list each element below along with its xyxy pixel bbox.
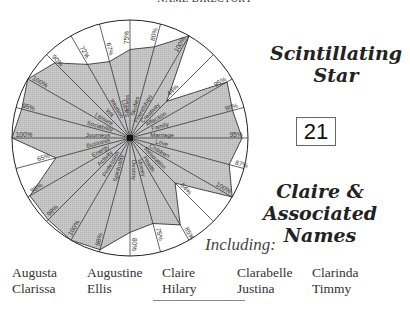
- chart-title-line2: Star: [262, 64, 410, 86]
- number-badge: 21: [296, 117, 336, 146]
- name-item[interactable]: Clarinda: [312, 265, 387, 281]
- radar-chart: Success75%Studies80%Friendships100%Creat…: [0, 0, 262, 262]
- center-point: [127, 135, 133, 141]
- chart-title: Scintillating Star: [262, 42, 410, 86]
- name-item[interactable]: Claire: [162, 265, 237, 281]
- percent-label: 100%: [16, 131, 33, 138]
- name-item[interactable]: Augustine: [87, 265, 162, 281]
- spoke-label: Marriage: [150, 132, 174, 138]
- spoke-label: Journeys: [86, 132, 110, 138]
- names-list: Augusta Augustine Claire Clarabelle Clar…: [12, 265, 402, 297]
- percent-label: 80%: [131, 238, 138, 251]
- spoke-label: Destiny: [131, 160, 137, 180]
- name-item[interactable]: Hilary: [162, 281, 237, 297]
- name-item[interactable]: Justina: [237, 281, 312, 297]
- name-item[interactable]: Augusta: [12, 265, 87, 281]
- including-label: Including:: [205, 235, 276, 255]
- chart-title-line1: Scintillating: [262, 42, 410, 64]
- names-divider: [153, 300, 245, 301]
- name-group-title-line1: Claire &: [225, 180, 410, 202]
- percent-label: 95%: [229, 131, 242, 138]
- name-item[interactable]: Timmy: [312, 281, 387, 297]
- name-item[interactable]: Clarabelle: [237, 265, 312, 281]
- name-item[interactable]: Clarissa: [12, 281, 87, 297]
- percent-label: 75%: [123, 31, 130, 44]
- name-item[interactable]: Ellis: [87, 281, 162, 297]
